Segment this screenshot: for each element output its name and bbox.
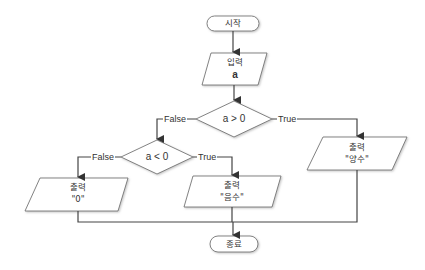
decision2-false-label: False (91, 152, 115, 162)
decision1-label: a > 0 (204, 113, 264, 124)
decision1-true-label: True (277, 114, 297, 124)
output-zero-value: "0" (46, 194, 110, 205)
output-positive-label: 출력 (325, 142, 389, 153)
end-label: 종료 (210, 239, 258, 250)
decision2-true-label: True (197, 152, 217, 162)
flowchart-canvas (0, 0, 425, 270)
output-zero-label: 출력 (46, 182, 110, 193)
input-label: 입력 (205, 57, 265, 68)
decision1-false-label: False (163, 114, 187, 124)
output-negative-label: 출력 (200, 180, 264, 191)
decision2-label: a < 0 (127, 151, 187, 162)
output-positive-value: "양수" (325, 154, 389, 165)
output-negative-value: "음수" (200, 192, 264, 203)
input-value: a (205, 69, 265, 80)
start-label: 시작 (207, 18, 259, 29)
